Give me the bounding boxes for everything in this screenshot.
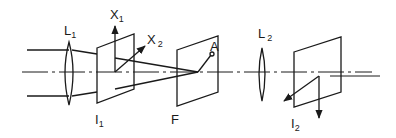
i2-output-arrows bbox=[284, 76, 319, 118]
lens-l2-label: L2 bbox=[258, 26, 272, 43]
lens-l1-label: L1 bbox=[64, 23, 76, 40]
x1-label: X1 bbox=[110, 7, 124, 24]
image-plane-i2-label: I2 bbox=[291, 116, 300, 133]
point-a: A bbox=[198, 39, 219, 72]
x2-label: X2 bbox=[147, 32, 163, 49]
focusing-rays bbox=[115, 58, 198, 89]
converging-rays-1 bbox=[72, 50, 97, 96]
optical-diagram: L1 I1 X1 X2 F A L2 I2 bbox=[0, 0, 396, 138]
lens-l1: L1 bbox=[64, 23, 76, 105]
x1-axis-arrow: X1 bbox=[110, 7, 124, 72]
lens-l2: L2 bbox=[258, 26, 272, 101]
filter-plane-f-label: F bbox=[171, 112, 179, 127]
point-a-label: A bbox=[210, 39, 219, 54]
image-plane-i1-label: I1 bbox=[95, 112, 104, 129]
optical-axis bbox=[22, 72, 380, 76]
image-plane-i2: I2 bbox=[291, 37, 341, 133]
incoming-rays bbox=[27, 50, 69, 96]
